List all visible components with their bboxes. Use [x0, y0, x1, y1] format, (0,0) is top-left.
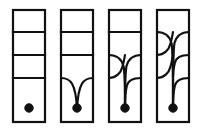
panel-1-basepoint-dot — [25, 104, 34, 113]
panel-2 — [61, 10, 93, 122]
strand-diagram-figure — [0, 0, 202, 134]
panel-3 — [109, 10, 141, 122]
panel-2-basepoint-dot — [73, 104, 82, 113]
panel-3-basepoint-dot — [121, 104, 130, 113]
panel-1 — [13, 10, 45, 122]
panel-4 — [157, 10, 189, 122]
diagram-canvas — [0, 0, 202, 134]
panel-4-basepoint-dot — [169, 104, 178, 113]
